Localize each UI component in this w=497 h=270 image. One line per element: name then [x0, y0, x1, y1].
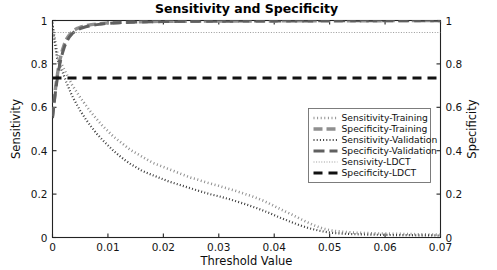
chart-figure: Sensitivity and Specificity00.010.020.03… — [0, 0, 497, 270]
y2-tick-label: 0.4 — [446, 145, 463, 157]
y-tick-label: 0.8 — [31, 58, 48, 70]
y2-tick-label: 0 — [446, 232, 453, 244]
x-tick-label: 0.03 — [207, 241, 230, 253]
y-tick-label: 0 — [41, 232, 48, 244]
legend-label-5: Specificity-LDCT — [342, 167, 417, 178]
y-axis-title: Sensitivity — [9, 99, 23, 159]
x-tick-label: 0.01 — [96, 241, 119, 253]
y-tick-label: 0.4 — [31, 145, 48, 157]
chart-title: Sensitivity and Specificity — [155, 1, 338, 16]
y-tick-label: 0.6 — [31, 101, 48, 113]
x-tick-label: 0 — [49, 241, 56, 253]
legend-label-2: Sensitivity-Validation — [342, 134, 438, 145]
x-tick-label: 0.02 — [152, 241, 175, 253]
y2-tick-label: 0.2 — [446, 188, 463, 200]
legend-label-0: Sensitivity-Training — [342, 112, 428, 123]
y2-axis-title: Specificity — [465, 99, 479, 158]
y2-tick-label: 0.8 — [446, 58, 463, 70]
x-tick-label: 0.04 — [263, 241, 287, 253]
x-tick-label: 0.05 — [318, 241, 341, 253]
legend-label-1: Specificity-Training — [342, 123, 428, 134]
y2-tick-label: 1 — [446, 15, 453, 27]
sensitivity-specificity-chart: Sensitivity and Specificity00.010.020.03… — [0, 0, 497, 270]
y-tick-label: 0.2 — [31, 188, 48, 200]
x-axis-title: Threshold Value — [200, 254, 293, 268]
legend-label-4: Sensivity-LDCT — [342, 156, 411, 167]
x-tick-label: 0.06 — [373, 241, 397, 253]
y2-tick-label: 0.6 — [446, 101, 463, 113]
legend-label-3: Specificity-Validation — [342, 145, 438, 156]
y-tick-label: 1 — [41, 15, 48, 27]
